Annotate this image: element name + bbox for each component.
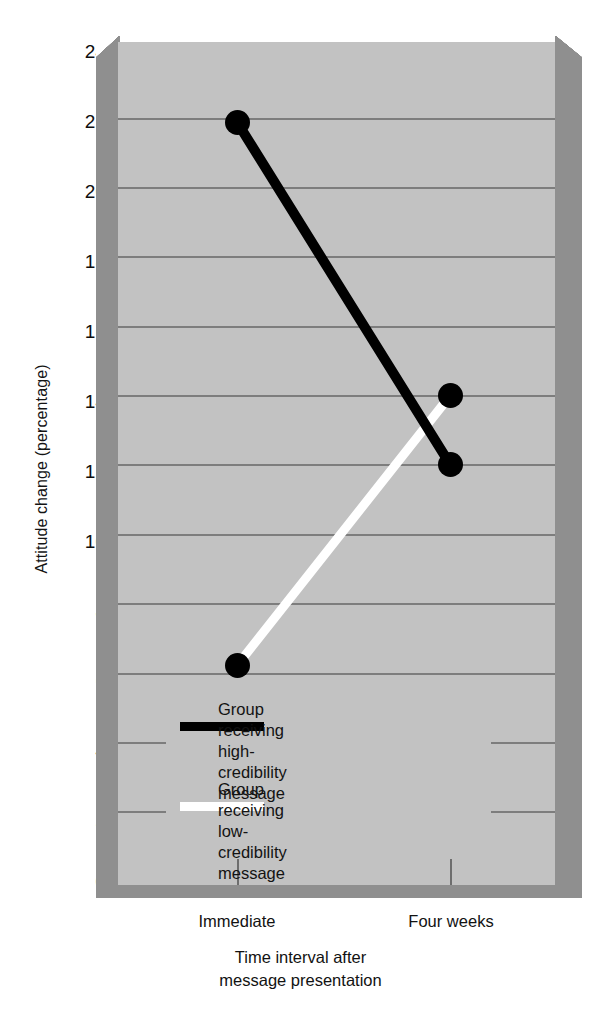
gridline-2-left-stub [118,811,166,813]
legend-label-low-credibility: Group receiving low-credibility message [218,779,287,884]
gridline-2-right-stub [491,811,555,813]
legend-label-high-credibility: Group receiving high-credibility message [218,699,287,804]
plot-bevel-right [555,54,582,898]
line-chart-figure: Attitude change (percentage) 24 22 20 18… [0,0,601,1015]
data-point-low-credibility-four-weeks [438,383,463,408]
gridline-4-right-stub [491,742,555,744]
x-tick-mark-four-weeks [450,859,452,885]
gridline-14 [118,395,555,397]
x-tick-mark-immediate [237,859,239,885]
series-line-low-credibility [233,394,453,669]
x-axis-title: Time interval after message presentation [0,946,601,992]
plot-face: Group receiving high-credibility message… [118,42,555,885]
legend-swatch-high-credibility [180,722,264,731]
gridline-6 [118,673,555,675]
y-axis-title: Attitude change (percentage) [33,259,51,679]
x-tick-label-four-weeks: Four weeks [408,912,493,931]
series-line-high-credibility [233,119,454,466]
plot-bevel-left [96,54,120,898]
gridline-4-left-stub [118,742,166,744]
plot-chamfer-top-right [555,36,582,58]
plot-area-3d-block: Group receiving high-credibility message… [96,36,582,898]
gridline-22 [118,118,555,120]
gridline-20 [118,187,555,189]
plot-chamfer-top-left [96,36,120,58]
x-tick-label-immediate: Immediate [198,912,275,931]
gridline-12 [118,464,555,466]
data-point-high-credibility-four-weeks [438,452,463,477]
gridline-16 [118,326,555,328]
data-point-high-credibility-immediate [225,110,250,135]
gridline-18 [118,256,555,258]
data-point-low-credibility-immediate [225,653,250,678]
gridline-8 [118,603,555,605]
legend-swatch-low-credibility [180,802,264,811]
